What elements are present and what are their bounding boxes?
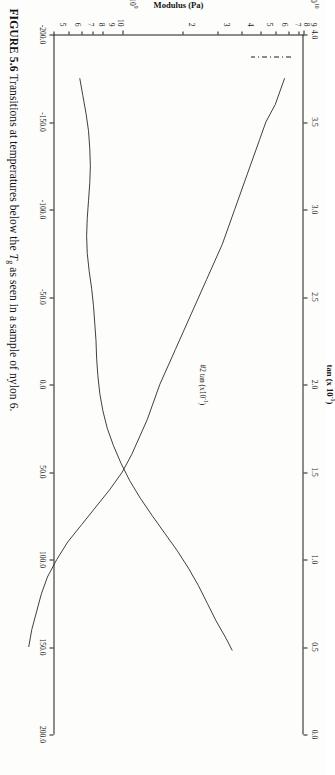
y2-tick-label: 0.5	[309, 642, 318, 652]
y2-tick	[303, 472, 307, 473]
tg-symbol: T	[7, 253, 19, 260]
y2-tick	[303, 297, 307, 298]
y2-tick	[303, 647, 307, 648]
y-tick-label: 5	[58, 22, 67, 26]
y-decade-exponent: 9	[132, 5, 138, 8]
tandelta-axis-title-tan: tan	[324, 364, 334, 376]
x-tick-label: 100.0	[37, 550, 46, 567]
y-tick-label: 5	[265, 22, 274, 26]
y-tick-label: 7	[293, 22, 302, 26]
y-tick-label: 6	[280, 22, 289, 26]
x-tick-label: -50.0	[37, 289, 46, 305]
x-tick-label: -150.0	[37, 112, 46, 132]
x-tick	[49, 122, 53, 123]
tandelta-axis-title-mult: (x 10	[324, 378, 334, 396]
dma-chart: -200.0 -150.0 -100.0 -50.0 0.0 50.0 100.…	[53, 34, 303, 734]
y2-tick-label: 1.0	[309, 554, 318, 564]
y-tick-decade	[122, 30, 123, 34]
y-decade-label-1e9: 109	[127, 0, 138, 8]
tandelta-axis-title: tan (x 10-1)	[324, 364, 335, 404]
y2-tick-label: 4.0	[309, 29, 318, 39]
y-tick-decade	[303, 30, 304, 34]
y-tick-label: 6	[73, 22, 82, 26]
x-tick-label: 50.0	[37, 465, 46, 478]
y2-tick	[303, 122, 307, 123]
y2-tick-label: 1.5	[309, 467, 318, 477]
y-tick-label: 4	[246, 22, 255, 26]
x-tick	[49, 559, 53, 560]
plot-curves	[53, 34, 303, 734]
y2-tick	[303, 734, 307, 735]
figure-number: FIGURE 5.6	[7, 8, 19, 71]
y2-tick-label: 2.5	[309, 292, 318, 302]
y2-tick	[303, 559, 307, 560]
x-tick	[49, 297, 53, 298]
x-tick	[49, 209, 53, 210]
y-tick-label: 9	[107, 22, 116, 26]
y2-tick-label: 3.5	[309, 117, 318, 127]
y-tick-label: 7	[86, 22, 95, 26]
x-tick	[49, 472, 53, 473]
y2-tick	[303, 384, 307, 385]
x-tick-label: 150.0	[37, 638, 46, 655]
y2-tick-label: 2.0	[309, 379, 318, 389]
y-tick-label: 10	[116, 18, 125, 26]
y-tick-label: 8	[97, 22, 106, 26]
curve-modulus	[28, 78, 284, 647]
y-tick-label: 9	[309, 22, 318, 26]
x-tick-label: 200.0	[37, 725, 46, 742]
curve-tandelta	[79, 78, 232, 650]
x-tick	[49, 647, 53, 648]
y-decade-label-1e10: 1010	[308, 0, 319, 8]
modulus-axis-title: Modulus (Pa)	[153, 0, 203, 9]
x-tick	[49, 734, 53, 735]
y-tick-label: 2	[187, 22, 196, 26]
y-decade-exponent: 10	[313, 2, 319, 8]
y2-tick-label: 0.0	[309, 729, 318, 739]
x-tick-label: -200.0	[37, 24, 46, 44]
caption-text-a: Transitions at temperatures below the	[7, 74, 19, 253]
y2-tick	[303, 209, 307, 210]
y2-tick-label: 3.0	[309, 204, 318, 214]
y-decade-mantissa: 10	[127, 0, 136, 5]
x-tick	[49, 384, 53, 385]
tandelta-axis-title-close: )	[324, 401, 334, 404]
x-tick-label: -100.0	[37, 199, 46, 219]
x-tick	[49, 34, 53, 35]
figure-caption: FIGURE 5.6 Transitions at temperatures b…	[4, 8, 20, 768]
tandelta-axis-title-exp: -1	[329, 396, 335, 401]
caption-text-b: as seen in a sample of nylon 6.	[7, 264, 19, 411]
x-tick-label: 0.0	[37, 379, 46, 389]
y-tick-label: 3	[222, 22, 231, 26]
tg-subscript: g	[5, 260, 14, 264]
